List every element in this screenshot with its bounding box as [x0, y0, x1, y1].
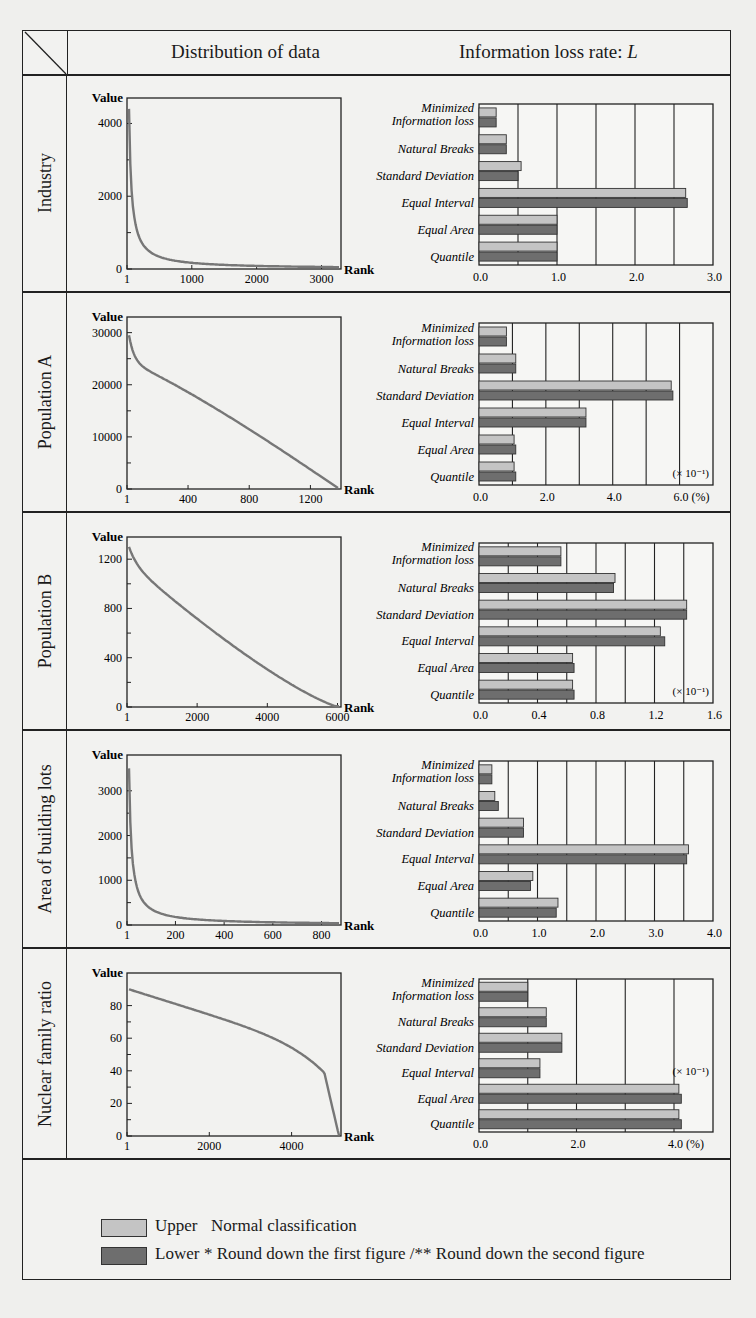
- bar-upper: [479, 654, 573, 663]
- svg-text:4000: 4000: [255, 710, 279, 724]
- svg-text:Information loss: Information loss: [391, 989, 474, 1003]
- svg-text:Natural Breaks: Natural Breaks: [397, 799, 474, 813]
- bar-upper: [479, 982, 528, 991]
- bar-lower: [479, 252, 557, 261]
- svg-text:Natural Breaks: Natural Breaks: [397, 581, 474, 595]
- svg-text:Minimized: Minimized: [420, 976, 475, 990]
- svg-text:0: 0: [116, 918, 122, 932]
- svg-text:0.8: 0.8: [590, 708, 605, 722]
- svg-text:2.0: 2.0: [590, 926, 605, 940]
- bar-lower: [479, 802, 498, 811]
- svg-text:Standard Deviation: Standard Deviation: [376, 608, 474, 622]
- bar-upper: [479, 1008, 546, 1017]
- svg-text:Quantile: Quantile: [430, 250, 474, 264]
- svg-text:1200: 1200: [98, 552, 122, 566]
- bar-upper: [479, 845, 688, 854]
- distribution-chart: ValueRank020406080120004000: [69, 949, 409, 1160]
- bar-upper: [479, 680, 573, 689]
- bar-upper: [479, 108, 496, 117]
- svg-text:6.0 (%): 6.0 (%): [674, 490, 710, 504]
- svg-text:3.0: 3.0: [649, 926, 664, 940]
- svg-text:Equal Interval: Equal Interval: [400, 634, 474, 648]
- svg-text:3.0 (%): 3.0 (%): [707, 270, 723, 284]
- svg-text:Natural Breaks: Natural Breaks: [397, 142, 474, 156]
- svg-text:1: 1: [124, 1139, 130, 1153]
- table-row: Population AValueRank0100002000030000140…: [23, 293, 730, 513]
- svg-text:Information loss: Information loss: [391, 771, 474, 785]
- svg-text:6000: 6000: [325, 710, 349, 724]
- svg-text:400: 400: [104, 651, 122, 665]
- svg-text:200: 200: [166, 928, 184, 942]
- svg-text:Standard Deviation: Standard Deviation: [376, 169, 474, 183]
- svg-text:4000: 4000: [98, 116, 122, 130]
- svg-text:4.0: 4.0: [607, 490, 622, 504]
- legend-lower-label: Lower: [155, 1244, 199, 1264]
- bar-lower: [479, 391, 673, 400]
- distribution-chart: ValueRank01000200030001200400600800: [69, 731, 409, 949]
- svg-text:1.2: 1.2: [649, 708, 664, 722]
- bar-lower: [479, 775, 492, 784]
- svg-text:0.0: 0.0: [473, 708, 488, 722]
- svg-text:Equal Interval: Equal Interval: [400, 1066, 474, 1080]
- legend-lower-note: * Round down the first figure /** Round …: [204, 1244, 645, 1264]
- bar-lower: [479, 225, 557, 234]
- svg-text:4.0 (%): 4.0 (%): [707, 926, 723, 940]
- bar-lower: [479, 1094, 681, 1103]
- bar-upper: [479, 135, 506, 144]
- svg-text:Equal Area: Equal Area: [416, 661, 474, 675]
- bar-upper: [479, 765, 492, 774]
- row-label-text: Nuclear family ratio: [34, 981, 55, 1127]
- bar-upper: [479, 242, 557, 251]
- svg-text:Standard Deviation: Standard Deviation: [376, 1041, 474, 1055]
- svg-text:400: 400: [215, 928, 233, 942]
- bar-upper: [479, 188, 686, 197]
- row-label: Population A: [23, 293, 67, 511]
- bar-upper: [479, 1110, 679, 1119]
- loss-bar-chart: MinimizedInformation lossNatural BreaksS…: [363, 293, 723, 513]
- svg-text:Equal Interval: Equal Interval: [400, 852, 474, 866]
- distribution-chart: ValueRank040080012001200040006000: [69, 513, 409, 731]
- svg-text:2.0: 2.0: [540, 490, 555, 504]
- svg-text:2000: 2000: [245, 272, 269, 286]
- svg-text:2.0: 2.0: [629, 270, 644, 284]
- row-label: Area of building lots: [23, 731, 67, 947]
- svg-text:Information loss: Information loss: [391, 334, 474, 348]
- bar-lower: [479, 992, 528, 1001]
- svg-text:10000: 10000: [92, 430, 122, 444]
- row-label: Population B: [23, 513, 67, 729]
- bar-lower: [479, 1120, 681, 1129]
- svg-text:20: 20: [110, 1096, 122, 1110]
- bar-upper: [479, 1033, 562, 1042]
- bar-lower: [479, 664, 574, 673]
- distribution-line: [129, 109, 339, 267]
- table-row: Area of building lotsValueRank0100020003…: [23, 731, 730, 949]
- table-row: Nuclear family ratioValueRank02040608012…: [23, 949, 730, 1160]
- bar-lower: [479, 172, 518, 181]
- svg-text:0.0: 0.0: [473, 1137, 488, 1151]
- bar-upper: [479, 381, 671, 390]
- bar-lower: [479, 364, 516, 373]
- bar-lower: [479, 690, 574, 699]
- row-label: Industry: [23, 74, 67, 291]
- scale-note: (× 10⁻¹): [673, 685, 710, 698]
- svg-text:0.0: 0.0: [473, 490, 488, 504]
- loss-column-title: Information loss rate: L: [459, 41, 638, 63]
- bar-lower: [479, 637, 665, 646]
- svg-text:1: 1: [124, 492, 130, 506]
- row-label: Nuclear family ratio: [23, 949, 67, 1158]
- svg-text:2000: 2000: [185, 710, 209, 724]
- bar-lower: [479, 1018, 546, 1027]
- diagonal-line-icon: [23, 31, 67, 74]
- svg-text:600: 600: [264, 928, 282, 942]
- bar-upper: [479, 574, 615, 583]
- svg-text:1000: 1000: [180, 272, 204, 286]
- svg-text:1200: 1200: [298, 492, 322, 506]
- svg-text:Standard Deviation: Standard Deviation: [376, 389, 474, 403]
- bar-upper: [479, 327, 506, 336]
- bar-upper: [479, 600, 687, 609]
- svg-text:Equal Interval: Equal Interval: [400, 416, 474, 430]
- bar-lower: [479, 198, 687, 207]
- row-label-text: Industry: [34, 153, 55, 213]
- scale-note: (× 10⁻¹): [673, 467, 710, 480]
- svg-text:0: 0: [116, 482, 122, 496]
